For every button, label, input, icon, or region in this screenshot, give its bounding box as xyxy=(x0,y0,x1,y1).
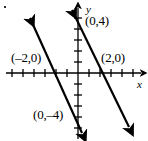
y-axis-label: y xyxy=(86,4,91,15)
point-label-2-0: (2,0) xyxy=(101,51,125,64)
point-label-0-4: (0,4) xyxy=(85,14,109,27)
graph-figure: (0,4) (–2,0) (2,0) (0,–4) x y xyxy=(0,0,148,141)
point-label-minus2-0: (–2,0) xyxy=(11,51,41,64)
x-axis xyxy=(6,69,141,77)
x-axis-label: x xyxy=(137,79,142,90)
coordinate-plot xyxy=(0,0,148,141)
point-label-0-minus4: (0,–4) xyxy=(33,108,63,121)
